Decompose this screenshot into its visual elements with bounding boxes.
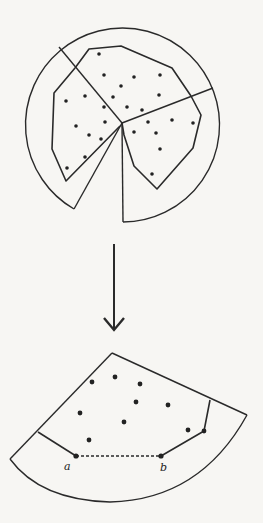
wedge-right-edge <box>112 353 247 415</box>
points-left-wedge <box>64 94 107 170</box>
label-b: b <box>160 461 167 474</box>
down-arrow <box>104 244 124 330</box>
hull-right <box>122 96 201 189</box>
top-figure <box>26 28 220 222</box>
hull-left-segment <box>38 432 76 456</box>
hull-top <box>75 46 191 96</box>
hull-right-segment <box>161 400 210 456</box>
ray-down <box>122 123 123 222</box>
points-right-wedge <box>132 118 195 176</box>
ray-upper-left <box>59 47 122 123</box>
points-top-wedge <box>97 52 162 112</box>
hull-left <box>52 68 120 181</box>
wedge-left-edge <box>10 353 112 459</box>
ray-right <box>122 88 213 123</box>
label-a: a <box>64 460 71 473</box>
bottom-figure: a b <box>10 353 247 502</box>
diagram-canvas: a b <box>0 0 263 523</box>
wedge-outer-arc <box>10 415 247 502</box>
